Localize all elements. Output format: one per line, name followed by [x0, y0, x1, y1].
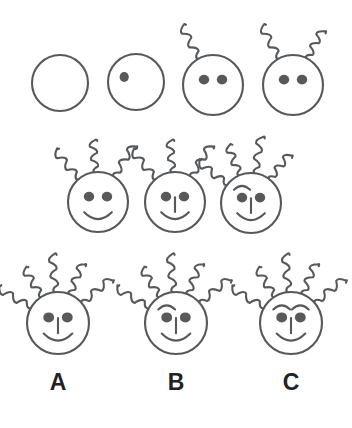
figure-1	[32, 55, 88, 111]
figure-6-eye-2	[179, 192, 189, 202]
option-b-label: B	[168, 369, 185, 395]
option-a-figure-eye-1	[43, 312, 54, 322]
figure-3-head	[183, 55, 243, 115]
figure-7-eye-1	[237, 193, 247, 203]
figure-6-eye-1	[161, 192, 171, 202]
option-a-label: A	[50, 369, 67, 395]
figure-5-eye-2	[102, 192, 112, 202]
figure-1-head	[32, 55, 88, 111]
puzzle-container: ABC	[0, 0, 352, 428]
option-c-figure-eye-1	[276, 312, 287, 322]
figure-5-head	[68, 172, 128, 232]
figure-2-eye-1	[120, 72, 129, 82]
figure-3-eye-1	[199, 75, 209, 85]
puzzle-figure-canvas: ABC	[0, 0, 352, 428]
figure-7-eye-2	[255, 193, 265, 203]
option-c-figure-eye-2	[295, 312, 306, 322]
figure-5-eye-1	[84, 192, 94, 202]
option-b-figure-eye-1	[161, 312, 172, 322]
figure-3-eye-2	[217, 75, 227, 85]
option-b-figure-eye-2	[180, 312, 191, 322]
option-a-figure-eye-2	[62, 312, 73, 322]
figure-4-head	[263, 55, 323, 115]
figure-2	[108, 54, 164, 110]
figure-4-eye-2	[297, 75, 307, 85]
figure-4-eye-1	[279, 75, 289, 85]
option-c-label: C	[283, 369, 300, 395]
figure-2-head	[108, 54, 164, 110]
